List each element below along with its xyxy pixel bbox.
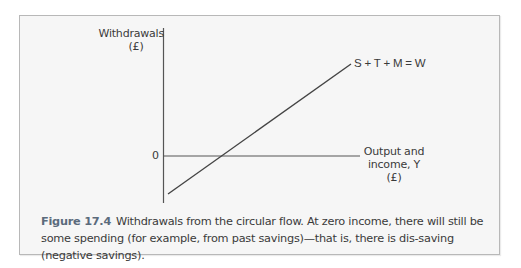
figure-number: Figure 17.4 — [41, 215, 111, 228]
withdrawals-line — [168, 64, 351, 194]
x-axis-label: Output and income, Y (£) — [362, 145, 426, 184]
y-axis-label-unit: (£) — [88, 40, 164, 53]
zero-tick-label: 0 — [152, 149, 159, 162]
series-label: S + T + M = W — [354, 57, 425, 70]
x-axis-label-line1: Output and — [362, 145, 426, 158]
x-axis-label-line3: (£) — [362, 171, 426, 184]
x-axis-label-line2: income, Y — [362, 158, 426, 171]
y-axis-label: Withdrawals (£) — [88, 27, 164, 53]
y-axis-label-line1: Withdrawals — [98, 27, 164, 40]
figure-caption: Figure 17.4Withdrawals from the circular… — [41, 213, 491, 264]
